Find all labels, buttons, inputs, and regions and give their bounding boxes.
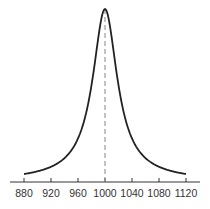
x-tick-label: 1040: [120, 187, 144, 199]
chart: 8809209601000104010801120: [0, 0, 210, 209]
x-axis-ticks: 8809209601000104010801120: [15, 178, 197, 199]
x-tick-label: 960: [69, 187, 87, 199]
x-tick-label: 1080: [147, 187, 171, 199]
x-tick-label: 920: [42, 187, 60, 199]
x-tick-label: 1000: [93, 187, 117, 199]
x-tick-label: 1120: [175, 187, 198, 199]
x-tick-label: 880: [15, 187, 33, 199]
